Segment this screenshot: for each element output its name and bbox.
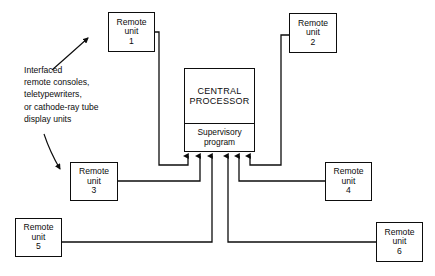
remote-unit-1-number: 1 bbox=[129, 37, 134, 47]
remote-unit-2-number: 2 bbox=[311, 38, 316, 48]
caption-line-4: or cathode-ray tube bbox=[24, 101, 140, 113]
remote-unit-5-number: 5 bbox=[36, 242, 41, 252]
remote-unit-3-node: Remote unit 3 bbox=[70, 162, 118, 201]
connector-unit-2 bbox=[250, 35, 289, 165]
cpu-sub-line-2: program bbox=[204, 138, 235, 147]
caption-line-5: display units bbox=[24, 113, 140, 125]
central-processor-node: CENTRAL PROCESSOR Supervisory program bbox=[184, 68, 255, 152]
remote-unit-5-node: Remote unit 5 bbox=[15, 218, 62, 257]
caption-line-2: remote consoles, bbox=[24, 76, 140, 88]
remote-unit-4-number: 4 bbox=[346, 186, 351, 196]
remote-unit-2-node: Remote unit 2 bbox=[289, 13, 337, 53]
caption-pointer-lower-arrow bbox=[44, 134, 60, 169]
connector-unit-4 bbox=[239, 156, 325, 181]
caption-interfaced-devices: Interfaced remote consoles, teletypewrit… bbox=[24, 64, 140, 125]
diagram-canvas: Interfaced remote consoles, teletypewrit… bbox=[0, 0, 435, 276]
remote-unit-1-node: Remote unit 1 bbox=[108, 12, 155, 52]
remote-unit-6-node: Remote unit 6 bbox=[376, 222, 423, 262]
remote-unit-6-number: 6 bbox=[397, 247, 402, 257]
caption-line-3: teletypewriters, bbox=[24, 88, 140, 100]
cpu-title-line-2: PROCESSOR bbox=[189, 96, 249, 106]
remote-unit-3-number: 3 bbox=[92, 186, 97, 196]
cpu-title-line-1: CENTRAL bbox=[197, 86, 241, 96]
remote-unit-4-node: Remote unit 4 bbox=[325, 162, 372, 201]
supervisory-program-section: Supervisory program bbox=[185, 124, 254, 151]
central-processor-title: CENTRAL PROCESSOR bbox=[185, 69, 254, 123]
caption-line-1: Interfaced bbox=[24, 64, 140, 76]
